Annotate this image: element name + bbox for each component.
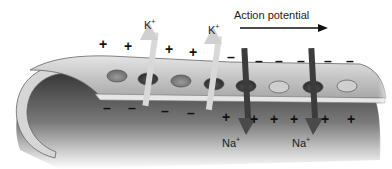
inside-charge-plus: +	[222, 110, 230, 124]
action-potential-label: Action potential	[234, 10, 309, 21]
inside-charge-plus: +	[321, 112, 329, 126]
outside-charge-minus: –	[346, 54, 354, 68]
axon-diagram: Action potential K+ K+ Na+ Na+ + + + + +…	[0, 0, 392, 169]
outside-charge-plus: +	[99, 37, 107, 51]
inside-charge-plus: +	[347, 112, 355, 126]
inside-charge-minus: –	[187, 106, 195, 120]
outside-charge-minus: –	[297, 54, 305, 68]
inside-charge-minus: –	[103, 101, 111, 115]
inside-charge-plus: +	[290, 112, 298, 126]
inside-charge-plus: +	[270, 112, 278, 126]
na-ion-label-2: Na+	[292, 138, 310, 149]
inside-charge-minus: –	[128, 101, 136, 115]
outside-charge-minus: –	[275, 54, 283, 68]
inside-charge-plus: +	[250, 112, 258, 126]
na-ion-label-1: Na+	[222, 138, 240, 149]
axon-illustration	[0, 0, 392, 169]
outside-charge-plus: +	[165, 42, 173, 56]
k-ion-label-2: K+	[208, 25, 219, 36]
action-potential-arrow	[240, 24, 328, 32]
inside-charge-minus: –	[161, 104, 169, 118]
outside-charge-plus: +	[124, 39, 132, 53]
k-ion-label-1: K+	[144, 20, 155, 31]
outside-charge-minus: –	[324, 54, 332, 68]
outside-charge-minus: –	[255, 54, 263, 68]
outside-charge-minus: –	[227, 50, 235, 64]
